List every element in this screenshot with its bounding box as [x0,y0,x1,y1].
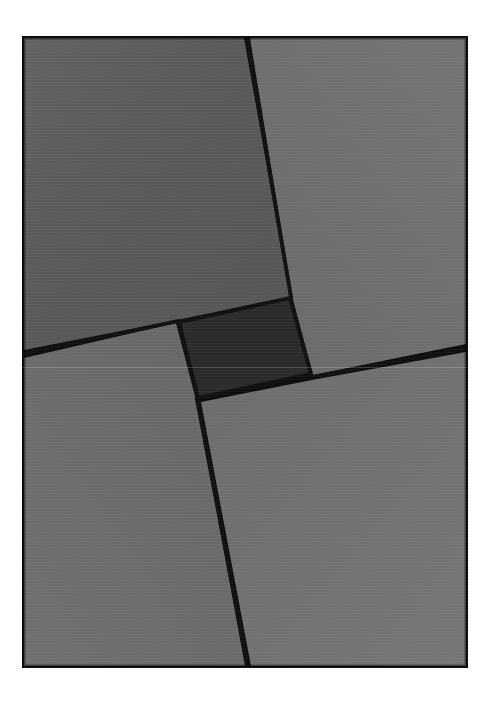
figure-canvas [0,0,492,702]
pinwheel-figure [0,0,492,702]
sheen-top-left [24,38,290,350]
page-root [0,0,492,702]
